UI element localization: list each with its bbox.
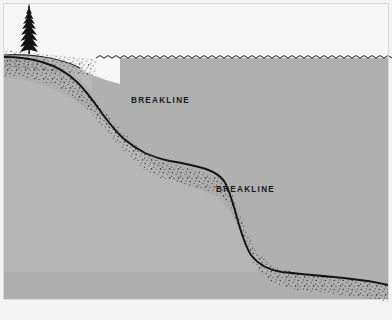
figure-plate: BREAKLINE BREAKLINE <box>0 0 392 320</box>
lake-cross-section-figure: BREAKLINE BREAKLINE <box>0 0 392 320</box>
breakline-label-upper: BREAKLINE <box>131 96 190 105</box>
breakline-label-lower: BREAKLINE <box>216 185 275 194</box>
